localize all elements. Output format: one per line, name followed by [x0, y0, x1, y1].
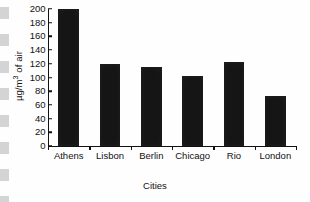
y-axis-tick: 160: [30, 32, 48, 42]
y-axis-tick: 40: [35, 114, 48, 124]
y-axis-tick: 180: [30, 18, 48, 28]
y-axis-tick-mark: [48, 49, 52, 50]
y-axis-tick-mark: [48, 118, 52, 119]
y-axis-tick-label: 180: [30, 18, 48, 28]
y-axis-tick-mark: [48, 22, 52, 23]
x-axis-category-label: Athens: [48, 150, 89, 161]
y-axis-tick-mark: [48, 8, 52, 9]
y-axis-tick: 200: [30, 4, 48, 14]
y-axis-tick-label: 0: [40, 141, 48, 151]
y-axis-tick-label: 80: [35, 86, 48, 96]
y-axis-tick-label: 20: [35, 128, 48, 138]
y-axis-tick-label: 40: [35, 114, 48, 124]
x-axis-category-label: Lisbon: [89, 150, 130, 161]
y-axis-tick: 60: [35, 100, 48, 110]
y-axis-tick-label: 120: [30, 59, 48, 69]
x-axis-category-label: Chicago: [172, 150, 213, 161]
y-axis-title-suffix: of air: [13, 51, 24, 75]
y-axis-tick: 140: [30, 45, 48, 55]
x-axis-title: Cities: [0, 180, 310, 191]
y-axis-title-prefix: µg/m: [13, 79, 24, 101]
x-axis-category-label: Rio: [213, 150, 254, 161]
x-axis-category-label: London: [255, 150, 296, 161]
x-axis-category-label: Berlin: [131, 150, 172, 161]
y-axis-tick-mark: [48, 77, 52, 78]
plot-area: 020406080100120140160180200: [48, 9, 296, 146]
bar: [141, 67, 162, 146]
scan-artifact-edge: [0, 0, 9, 202]
bar: [265, 96, 286, 146]
bar: [100, 64, 121, 146]
y-axis-tick-label: 100: [30, 73, 48, 83]
bar: [224, 62, 245, 146]
y-axis-title: µg/m3 of air: [12, 0, 26, 152]
y-axis-tick-mark: [48, 36, 52, 37]
y-axis-tick: 0: [40, 141, 48, 151]
x-axis-tick-mark: [296, 146, 297, 150]
y-axis-tick: 120: [30, 59, 48, 69]
y-axis-tick-label: 160: [30, 32, 48, 42]
bar: [182, 76, 203, 146]
y-axis-tick-mark: [48, 132, 52, 133]
y-axis-tick-label: 60: [35, 100, 48, 110]
y-axis-tick: 80: [35, 86, 48, 96]
bar-chart-figure: µg/m3 of air 020406080100120140160180200…: [0, 0, 310, 202]
y-axis-tick: 100: [30, 73, 48, 83]
y-axis-tick-label: 140: [30, 45, 48, 55]
bar: [58, 9, 79, 146]
y-axis-tick-label: 200: [30, 4, 48, 14]
y-axis-tick-mark: [48, 63, 52, 64]
y-axis-title-exponent: 3: [12, 75, 19, 79]
y-axis-tick-mark: [48, 91, 52, 92]
y-axis-tick-mark: [48, 104, 52, 105]
y-axis-tick: 20: [35, 128, 48, 138]
